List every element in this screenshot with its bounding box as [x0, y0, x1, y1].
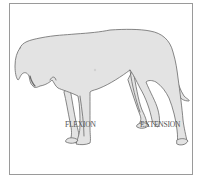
dog-front-leg-far: [64, 88, 79, 143]
dog-illustration: [0, 0, 202, 183]
dog-rear-paw-near: [177, 139, 188, 145]
body-spot: [94, 69, 96, 71]
dog-front-paw: [66, 138, 78, 144]
flexion-label: FLEXION: [65, 120, 96, 129]
extension-label: EXTENSION: [140, 120, 180, 129]
